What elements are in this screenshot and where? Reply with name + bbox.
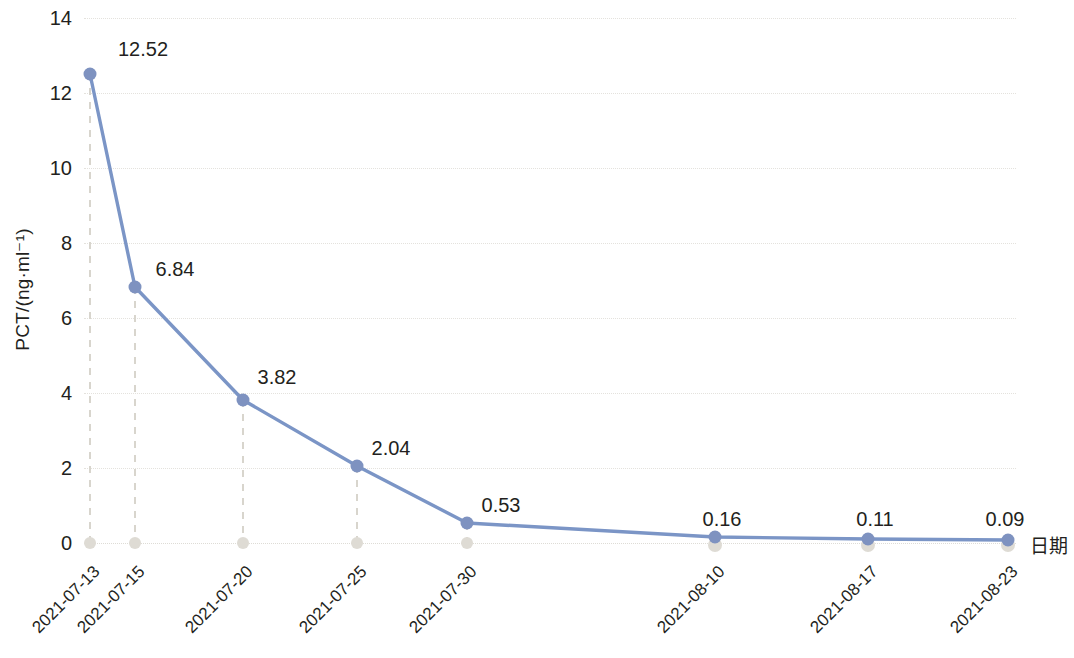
- value-label-0: 12.52: [118, 38, 168, 61]
- value-label-5: 0.16: [703, 508, 742, 531]
- value-label-2: 3.82: [258, 366, 297, 389]
- pct-trend-line-chart: PCT/(ng·ml⁻¹) 0 2 4 6 8 10 12 14: [0, 0, 1074, 658]
- value-label-7: 0.09: [986, 508, 1025, 531]
- value-label-3: 2.04: [372, 437, 411, 460]
- x-axis-title: 日期: [1030, 531, 1068, 558]
- plot-area: 12.52 6.84 3.82 2.04 0.53 0.16 0.11 0.09: [0, 0, 1074, 658]
- value-label-1: 6.84: [156, 258, 195, 281]
- value-label-4: 0.53: [482, 494, 521, 517]
- value-label-6: 0.11: [856, 508, 893, 531]
